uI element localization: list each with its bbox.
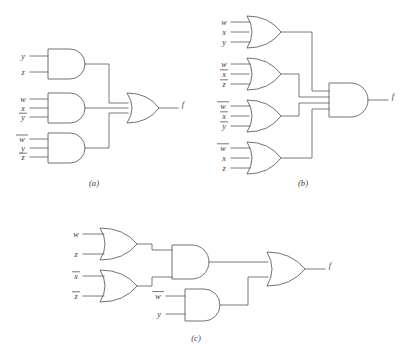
label-b-in11: x (221, 154, 226, 163)
wire-c2and-out (220, 277, 268, 305)
panel-a: y z w x y w y z f (a) (16, 49, 186, 188)
or-gate-b1 (247, 16, 281, 48)
label-a-in7: y (20, 144, 25, 153)
label-b-in3: y (221, 38, 226, 47)
panel-c: w z x z w y f (c) (72, 228, 333, 343)
or-gate-b3 (247, 100, 281, 132)
or-gate-c1 (100, 228, 137, 260)
label-c-in5: w (155, 292, 161, 301)
and-gate-c2 (185, 289, 220, 321)
panel-b: w x y w x z w x y w x z f (b) (217, 16, 396, 188)
and-gate-c1 (172, 245, 209, 279)
or-gate-c-out (267, 252, 305, 286)
label-a-in3: w (20, 95, 26, 104)
label-b-in9: y (221, 122, 226, 131)
wire-b1-out (281, 32, 329, 91)
and-gate-a2 (48, 93, 85, 123)
wire-a3-out (85, 113, 128, 148)
wire-b2-out (281, 74, 329, 97)
label-a-in2: z (20, 68, 25, 77)
label-c-in3: x (73, 272, 78, 281)
label-b-in7: w (220, 102, 226, 111)
and-gate-a1 (48, 49, 85, 79)
label-a-in1: y (20, 52, 25, 61)
wire-a1-out (85, 64, 128, 103)
label-b-out: f (392, 92, 396, 101)
label-b-in5: x (221, 70, 226, 79)
or-gate-b4 (247, 142, 281, 174)
label-b-in4: w (221, 60, 227, 69)
label-c-in1: w (73, 230, 79, 239)
label-a-in8: z (20, 153, 25, 162)
caption-b: (b) (298, 178, 308, 188)
label-c-out: f (329, 261, 333, 270)
label-b-in12: z (221, 164, 226, 173)
label-a-in4: x (20, 104, 25, 113)
or-gate-c2 (100, 270, 137, 302)
label-c-in6: y (156, 310, 161, 319)
label-b-in6: z (221, 80, 226, 89)
caption-c: (c) (191, 333, 201, 343)
label-a-out: f (182, 100, 186, 109)
and-gate-a3 (48, 133, 85, 163)
or-gate-a-out (127, 93, 159, 123)
logic-circuit-figure: y z w x y w y z f (a) (0, 0, 409, 361)
label-b-in1: w (221, 18, 227, 27)
label-a-in6: w (19, 135, 25, 144)
wire-c1-out (137, 244, 172, 250)
and-gate-b-out (329, 83, 368, 117)
caption-a: (a) (89, 178, 99, 188)
label-a-in5: y (20, 113, 25, 122)
label-b-in8: x (221, 112, 226, 121)
label-c-in2: z (73, 250, 78, 259)
label-c-in4: z (73, 292, 78, 301)
wire-b3-out (281, 103, 329, 116)
wire-c2-out (137, 277, 172, 286)
label-b-in2: x (221, 28, 226, 37)
label-b-in10: w (220, 144, 226, 153)
or-gate-b2 (247, 58, 281, 90)
